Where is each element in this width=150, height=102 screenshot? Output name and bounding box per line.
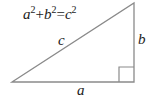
formula-b-exponent: 2 xyxy=(51,4,56,15)
pythagorean-formula: a2+b2=c2 xyxy=(23,7,77,22)
formula-c: c xyxy=(65,6,72,22)
formula-c-exponent: 2 xyxy=(72,4,77,15)
hypotenuse-label: c xyxy=(58,33,65,48)
right-angle-marker xyxy=(119,67,134,82)
formula-a: a xyxy=(23,6,31,22)
vertical-leg-label: b xyxy=(138,32,146,47)
horizontal-leg-label: a xyxy=(77,83,85,98)
formula-a-exponent: 2 xyxy=(31,4,36,15)
formula-equals: = xyxy=(56,6,64,22)
pythagorean-triangle-diagram: a2+b2=c2 c b a xyxy=(0,0,150,102)
formula-plus: + xyxy=(36,6,44,22)
